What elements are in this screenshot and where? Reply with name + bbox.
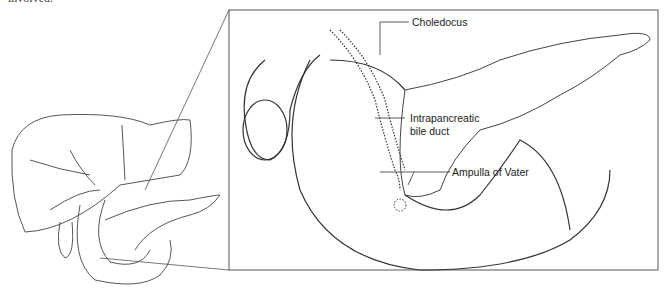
label-choledocus: Choledocus [412, 16, 467, 28]
duodenum-detail [243, 55, 610, 270]
anatomy-illustration [0, 0, 665, 291]
ampulla-marker [394, 199, 406, 211]
bile-duct [330, 30, 405, 190]
label-intrapancreatic-1: Intrapancreatic [410, 112, 479, 124]
zoom-box [229, 10, 658, 270]
liver-overview [12, 114, 191, 232]
label-ampulla: Ampulla of Vater [452, 166, 529, 178]
duodenum-overview [58, 195, 220, 284]
label-intrapancreatic-2: bile duct [410, 125, 449, 137]
